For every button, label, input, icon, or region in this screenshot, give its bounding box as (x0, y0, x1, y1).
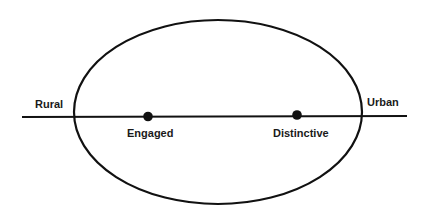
rural-urban-axis-line (22, 116, 407, 117)
urban-label: Urban (367, 96, 399, 108)
engaged-point (143, 112, 153, 122)
distinctive-point (292, 110, 302, 120)
rural-label: Rural (35, 98, 63, 110)
ellipse-boundary (74, 20, 362, 204)
engaged-label: Engaged (127, 127, 173, 139)
continuum-diagram: Rural Urban Engaged Distinctive (0, 0, 426, 221)
distinctive-label: Distinctive (273, 127, 329, 139)
